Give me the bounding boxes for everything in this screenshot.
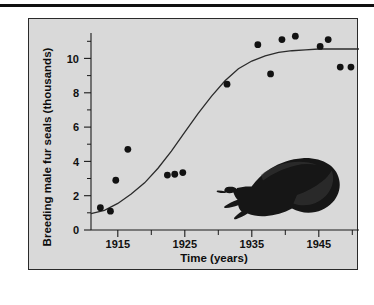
fur-seal-growth-chart: Breeding male fur seals (thousands) Time… (29, 19, 359, 271)
data-point (348, 64, 355, 71)
figure-panel: Breeding male fur seals (thousands) Time… (28, 18, 358, 270)
y-tick-label-2: 2 (73, 190, 79, 202)
x-tick-label-1925: 1925 (173, 238, 197, 250)
x-tick-label-1915: 1915 (106, 238, 130, 250)
top-horizontal-rule (0, 4, 374, 7)
x-axis-tick-labels: 1915 1925 1935 1945 (106, 238, 331, 250)
data-point (224, 81, 231, 88)
y-tick-label-10: 10 (67, 53, 79, 65)
data-point (337, 64, 344, 71)
y-tick-label-0: 0 (73, 224, 79, 236)
data-point (164, 172, 171, 179)
y-axis-title: Breeding male fur seals (thousands) (41, 47, 53, 246)
data-point (292, 33, 299, 40)
data-point (124, 146, 131, 153)
data-point (97, 204, 104, 211)
y-tick-label-8: 8 (73, 87, 79, 99)
data-point (317, 43, 324, 50)
data-point (107, 208, 114, 215)
data-point (279, 36, 286, 43)
y-tick-label-6: 6 (73, 121, 79, 133)
fur-seal-silhouette (217, 158, 340, 219)
x-tick-label-1935: 1935 (240, 238, 264, 250)
figure-page: Breeding male fur seals (thousands) Time… (0, 0, 374, 305)
data-point (325, 36, 332, 43)
chart-plot-area: Breeding male fur seals (thousands) Time… (29, 19, 359, 271)
y-axis-tick-labels: 0 2 4 6 8 10 (67, 53, 80, 237)
data-point (179, 169, 186, 176)
data-point (112, 177, 119, 184)
x-tick-label-1945: 1945 (307, 238, 331, 250)
data-point (267, 70, 274, 77)
data-point (171, 171, 178, 178)
y-tick-label-4: 4 (73, 156, 80, 168)
data-point (254, 41, 261, 48)
x-axis-title: Time (years) (180, 252, 248, 264)
